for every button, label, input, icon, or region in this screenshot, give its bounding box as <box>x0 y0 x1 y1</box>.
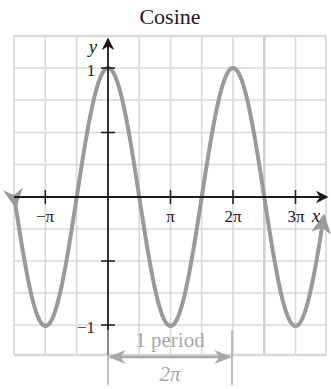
y-axis-label: y <box>87 36 98 57</box>
period-label: 1 period <box>135 328 205 352</box>
x-tick-label-2pi: 2π <box>224 207 242 226</box>
x-tick-label-3pi: 3π <box>287 207 305 226</box>
x-tick-label-pi: π <box>166 207 175 226</box>
period-value: 2π <box>159 362 181 386</box>
chart-title: Cosine <box>139 4 200 29</box>
x-axis-label: x <box>311 205 321 226</box>
y-tick-label-neg1: −1 <box>77 318 95 337</box>
cosine-chart: Cosine <box>0 0 331 389</box>
period-annotation: 1 period 2π <box>108 328 232 386</box>
x-tick-label-neg-pi: −π <box>36 207 55 226</box>
y-tick-label-1: 1 <box>87 61 96 80</box>
